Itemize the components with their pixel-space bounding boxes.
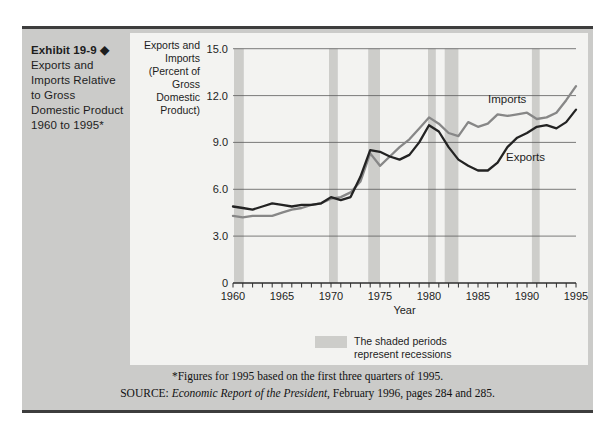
x-axis-title: Year	[233, 304, 576, 316]
exhibit-title: Exhibit 19-9 ◆	[31, 43, 133, 58]
recession-band	[532, 49, 540, 283]
source-rest: , February 1996, pages 284 and 285.	[327, 387, 495, 399]
caption-line: to Gross	[31, 88, 133, 103]
y-axis-title-line: Gross	[136, 78, 200, 91]
exports-line-label: Exports	[506, 151, 545, 163]
legend-line: The shaded periods	[354, 335, 451, 348]
recession-band	[329, 49, 338, 283]
bottom-rule	[22, 410, 593, 413]
footnote-asterisk: *Figures for 1995 based on the first thr…	[22, 370, 593, 382]
imports-line-label: Imports	[488, 93, 526, 105]
caption-line: 1960 to 1995*	[31, 118, 133, 133]
y-axis-title-line: Domestic	[136, 91, 200, 104]
recession-band	[445, 49, 459, 283]
recession-band	[428, 49, 436, 283]
footnotes: *Figures for 1995 based on the first thr…	[22, 370, 593, 399]
recession-legend: The shaded periods represent recessions	[315, 335, 451, 360]
y-axis-title-line: (Percent of	[136, 65, 200, 78]
legend-line: represent recessions	[354, 348, 451, 361]
exhibit-caption: Exhibit 19-9 ◆ Exports and Imports Relat…	[31, 43, 133, 133]
y-axis-title: Exports and Imports (Percent of Gross Do…	[136, 39, 200, 117]
source-prefix: SOURCE:	[120, 387, 171, 399]
caption-line: Domestic Product	[31, 103, 133, 118]
source-title: Economic Report of the President	[172, 387, 327, 399]
recession-band	[234, 49, 244, 283]
y-axis-title-line: Exports and	[136, 39, 200, 52]
exhibit-number: Exhibit 19-9	[31, 44, 97, 56]
caption-line: Exports and	[31, 58, 133, 73]
recession-band	[368, 49, 380, 283]
legend-text: The shaded periods represent recessions	[354, 335, 451, 360]
footnote-source: SOURCE: Economic Report of the President…	[22, 387, 593, 399]
diamond-icon: ◆	[100, 44, 109, 56]
y-axis-title-line: Imports	[136, 52, 200, 65]
exhibit-panel: Exhibit 19-9 ◆ Exports and Imports Relat…	[22, 29, 593, 410]
caption-line: Imports Relative	[31, 73, 133, 88]
chart-area: Exports and Imports (Percent of Gross Do…	[130, 33, 588, 365]
y-axis-title-line: Product)	[136, 104, 200, 117]
page: Exhibit 19-9 ◆ Exports and Imports Relat…	[0, 0, 613, 428]
recession-swatch	[315, 336, 347, 348]
